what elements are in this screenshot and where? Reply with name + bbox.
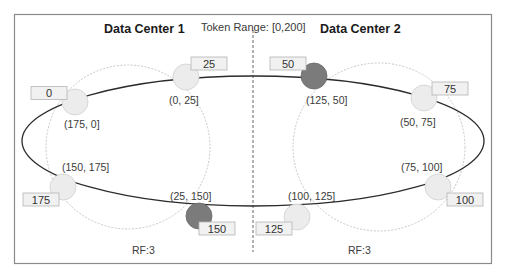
node-dc1-token-175: 175 (150, 175] (23, 161, 109, 206)
node-dc1-token-25: 25 (0, 25] (169, 57, 227, 106)
ring-diagram: Data Center 1 Data Center 2 Token Range:… (0, 0, 506, 277)
node-dc2-token-125: 125 (100, 125] (256, 190, 335, 235)
dc1-title: Data Center 1 (104, 22, 185, 36)
token-range-label: Token Range: [0,200] (201, 21, 306, 33)
range-label: (75, 100] (401, 161, 443, 173)
range-label: (25, 150] (170, 190, 212, 202)
node-dc2-token-100: 100 (75, 100] (401, 161, 483, 206)
token-label: 125 (265, 223, 283, 235)
range-label: (175, 0] (64, 118, 100, 130)
node-dc2-token-50: 50 (125, 50] (270, 57, 348, 106)
dc2-replication-factor: RF:3 (348, 244, 371, 256)
token-label: 25 (203, 58, 215, 70)
token-label: 100 (456, 194, 474, 206)
token-label: 0 (46, 87, 52, 99)
range-label: (100, 125] (288, 190, 335, 202)
token-label: 50 (282, 58, 294, 70)
token-label: 150 (208, 223, 226, 235)
token-label: 75 (444, 83, 456, 95)
node-dc1-token-150: 150 (25, 150] (170, 190, 235, 235)
range-label: (150, 175] (62, 161, 109, 173)
dc1-replication-factor: RF:3 (132, 244, 155, 256)
range-label: (0, 25] (169, 94, 199, 106)
node-dc2-token-75: 75 (50, 75] (400, 82, 468, 128)
range-label: (50, 75] (400, 116, 436, 128)
dc2-title: Data Center 2 (320, 22, 401, 36)
token-label: 175 (32, 194, 50, 206)
node-dc1-token-0: 0 (175, 0] (31, 87, 100, 131)
range-label: (125, 50] (306, 94, 348, 106)
